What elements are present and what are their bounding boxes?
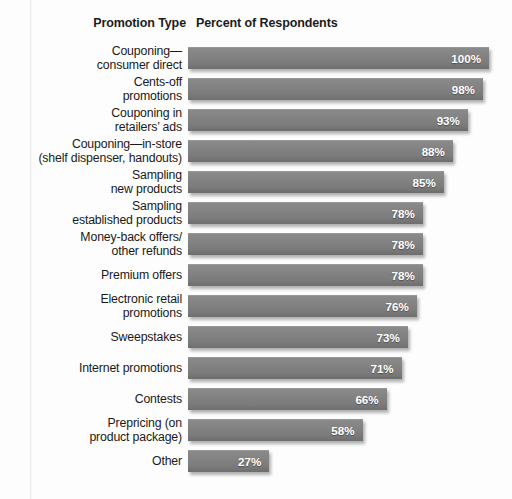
bar: 100% — [188, 47, 489, 69]
bar: 58% — [188, 419, 363, 441]
bar-value-label: 76% — [386, 300, 409, 313]
bar: 76% — [188, 295, 417, 317]
bar: 71% — [188, 357, 402, 379]
bar-row: Internet promotions71% — [0, 352, 512, 383]
bar-row: Sampling new products85% — [0, 166, 512, 197]
bar-category-label: Premium offers — [0, 267, 182, 281]
bar-category-label: Sampling new products — [0, 167, 182, 196]
bar: 93% — [188, 109, 468, 131]
bar-row: Prepricing (on product package)58% — [0, 414, 512, 445]
bar-track: 93% — [188, 109, 498, 131]
bar-category-label: Other — [0, 453, 182, 467]
bar-rows: Couponing— consumer direct100%Cents-off … — [0, 42, 512, 476]
bar: 98% — [188, 78, 483, 100]
bar: 85% — [188, 171, 444, 193]
bar-category-label: Sweepstakes — [0, 329, 182, 343]
bar-track: 78% — [188, 233, 498, 255]
bar-track: 85% — [188, 171, 498, 193]
bar-track: 71% — [188, 357, 498, 379]
bar-track: 27% — [188, 450, 498, 472]
chart-header: Promotion Type Percent of Respondents — [0, 16, 512, 36]
bar: 66% — [188, 388, 387, 410]
bar-value-label: 78% — [392, 238, 415, 251]
bar-row: Money-back offers/ other refunds78% — [0, 228, 512, 259]
bar-value-label: 78% — [392, 269, 415, 282]
bar-row: Electronic retail promotions76% — [0, 290, 512, 321]
bar-category-label: Money-back offers/ other refunds — [0, 229, 182, 258]
bar-track: 78% — [188, 264, 498, 286]
bar-track: 78% — [188, 202, 498, 224]
bar-row: Couponing—in-store (shelf dispenser, han… — [0, 135, 512, 166]
bar-value-label: 85% — [413, 176, 436, 189]
bar-row: Couponing in retailers’ ads93% — [0, 104, 512, 135]
bar-category-label: Cents-off promotions — [0, 74, 182, 103]
bar-category-label: Sampling established products — [0, 198, 182, 227]
bar-row: Cents-off promotions98% — [0, 73, 512, 104]
bar-category-label: Internet promotions — [0, 360, 182, 374]
bar-value-label: 71% — [370, 362, 393, 375]
bar-track: 73% — [188, 326, 498, 348]
bar-track: 98% — [188, 78, 498, 100]
bar-row: Couponing— consumer direct100% — [0, 42, 512, 73]
bar-track: 76% — [188, 295, 498, 317]
bar-value-label: 73% — [376, 331, 399, 344]
bar-category-label: Electronic retail promotions — [0, 291, 182, 320]
bar: 78% — [188, 264, 423, 286]
bar: 78% — [188, 202, 423, 224]
bar: 73% — [188, 326, 408, 348]
bar-row: Sweepstakes73% — [0, 321, 512, 352]
bar: 78% — [188, 233, 423, 255]
bar-value-label: 78% — [392, 207, 415, 220]
bar-category-label: Couponing—in-store (shelf dispenser, han… — [0, 136, 182, 165]
column-header-percent-of-respondents: Percent of Respondents — [196, 16, 338, 30]
bar-chart-figure: Promotion Type Percent of Respondents Co… — [0, 0, 512, 499]
bar-category-label: Prepricing (on product package) — [0, 415, 182, 444]
bar-row: Premium offers78% — [0, 259, 512, 290]
bar: 27% — [188, 450, 269, 472]
bar-value-label: 93% — [437, 114, 460, 127]
bar-value-label: 100% — [451, 52, 481, 65]
bar-row: Other27% — [0, 445, 512, 476]
bar-value-label: 58% — [331, 424, 354, 437]
bar-row: Sampling established products78% — [0, 197, 512, 228]
bar-track: 88% — [188, 140, 498, 162]
bar-category-label: Contests — [0, 391, 182, 405]
bar-value-label: 88% — [422, 145, 445, 158]
bar-value-label: 27% — [238, 455, 261, 468]
bar-value-label: 66% — [355, 393, 378, 406]
bar-track: 66% — [188, 388, 498, 410]
bar: 88% — [188, 140, 453, 162]
bar-category-label: Couponing— consumer direct — [0, 43, 182, 72]
bar-track: 58% — [188, 419, 498, 441]
bar-category-label: Couponing in retailers’ ads — [0, 105, 182, 134]
column-header-promotion-type: Promotion Type — [0, 16, 186, 30]
bar-value-label: 98% — [452, 83, 475, 96]
bar-row: Contests66% — [0, 383, 512, 414]
bar-track: 100% — [188, 47, 498, 69]
